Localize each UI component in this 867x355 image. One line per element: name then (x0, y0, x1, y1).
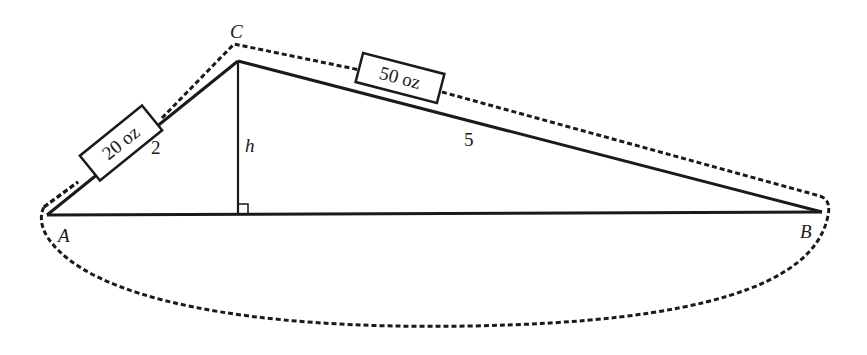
triangle-diagram: 20 oz 50 oz C A B 2 5 h (0, 0, 867, 355)
weight-box-20oz: 20 oz (80, 105, 162, 180)
vertex-label-c: C (230, 21, 243, 42)
side-label-cb: 5 (464, 129, 474, 150)
side-ab (47, 212, 822, 215)
side-cb (238, 61, 822, 212)
altitude-label-h: h (245, 135, 255, 156)
side-label-ac: 2 (151, 137, 161, 158)
right-angle-marker (238, 204, 248, 214)
vertex-label-a: A (56, 225, 70, 246)
vertex-label-b: B (800, 221, 812, 242)
